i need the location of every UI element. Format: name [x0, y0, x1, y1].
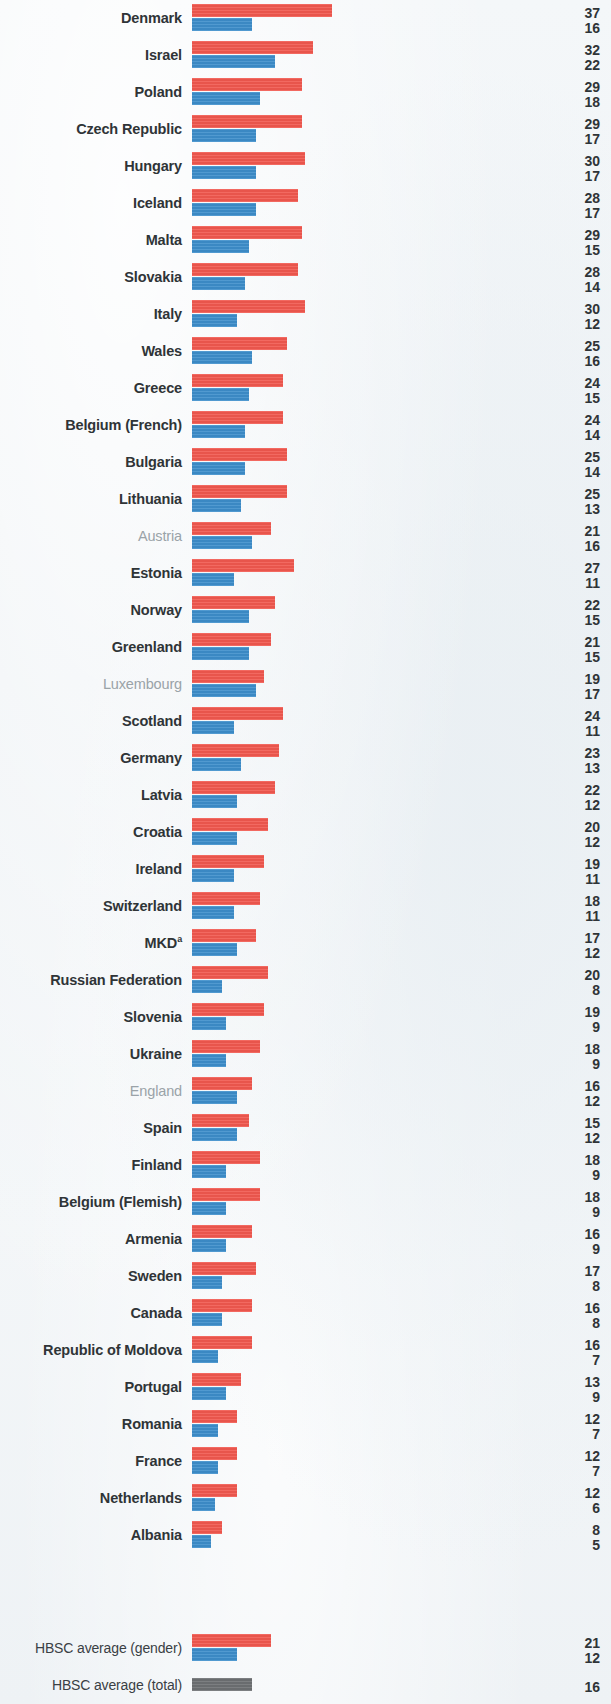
bar-girls [192, 758, 241, 771]
row-values: 2415 [554, 370, 600, 407]
row-values: 127 [554, 1406, 600, 1443]
row-values: 2918 [554, 74, 600, 111]
value-boys: 24 [584, 376, 600, 390]
row-label: Greece [0, 370, 182, 407]
value-girls: 16 [584, 21, 600, 35]
chart-row: Croatia2012 [0, 814, 611, 851]
value-girls: 11 [585, 724, 600, 738]
row-values: 189 [554, 1184, 600, 1221]
bar-boys [192, 1447, 237, 1460]
value-girls: 5 [592, 1538, 600, 1552]
bar-girls [192, 462, 245, 475]
value-boys: 22 [584, 783, 600, 797]
row-label: Hungary [0, 148, 182, 185]
bar-boys [192, 374, 283, 387]
bar-boys [192, 4, 332, 17]
row-label: England [0, 1073, 182, 1110]
value-boys: 20 [584, 820, 600, 834]
row-label: Canada [0, 1295, 182, 1332]
value-girls: 17 [584, 687, 600, 701]
chart-row: Ukraine189 [0, 1036, 611, 1073]
bar-girls [192, 55, 275, 68]
bar-boys [192, 226, 302, 239]
value-boys: 28 [584, 191, 600, 205]
value-girls: 16 [584, 539, 600, 553]
row-values: 2116 [554, 518, 600, 555]
value-boys: 13 [584, 1375, 600, 1389]
value-girls: 9 [592, 1205, 600, 1219]
bar-average-girls [192, 1648, 237, 1661]
chart-row: Scotland2411 [0, 703, 611, 740]
bar-girls [192, 129, 256, 142]
row-label: Albania [0, 1517, 182, 1554]
chart-row: Denmark3716 [0, 0, 611, 37]
row-values: 199 [554, 999, 600, 1036]
bar-girls [192, 980, 222, 993]
bar-girls [192, 351, 252, 364]
bar-average-total [192, 1678, 252, 1691]
row-label: HBSC average (total) [0, 1667, 182, 1704]
row-label: Malta [0, 222, 182, 259]
value-boys: 29 [584, 80, 600, 94]
value-girls: 11 [585, 576, 600, 590]
chart-row: Albania85 [0, 1517, 611, 1554]
row-values: 1612 [554, 1073, 600, 1110]
chart-row: England1612 [0, 1073, 611, 1110]
value-girls: 9 [592, 1020, 600, 1034]
row-values: 2513 [554, 481, 600, 518]
value-girls: 12 [584, 946, 600, 960]
value-girls: 14 [584, 465, 600, 479]
value-boys: 15 [584, 1116, 600, 1130]
row-values: 139 [554, 1369, 600, 1406]
row-label: Sweden [0, 1258, 182, 1295]
bar-girls [192, 906, 234, 919]
chart-row: Czech Republic2917 [0, 111, 611, 148]
row-values: 2411 [554, 703, 600, 740]
value-boys: 12 [584, 1486, 600, 1500]
chart-row: Belgium (French)2414 [0, 407, 611, 444]
value-average-girls: 12 [584, 1651, 600, 1665]
value-girls: 11 [585, 872, 600, 886]
chart-row: Armenia169 [0, 1221, 611, 1258]
value-girls: 14 [584, 428, 600, 442]
value-boys: 16 [584, 1227, 600, 1241]
chart-row: Ireland1911 [0, 851, 611, 888]
bar-boys [192, 1299, 252, 1312]
row-values: 16 [554, 1667, 600, 1704]
row-values: 2212 [554, 777, 600, 814]
average-row: HBSC average (total)16 [0, 1667, 611, 1704]
chart-row: Iceland2817 [0, 185, 611, 222]
value-boys: 18 [584, 1153, 600, 1167]
row-values: 2012 [554, 814, 600, 851]
value-boys: 25 [584, 487, 600, 501]
bar-boys [192, 300, 305, 313]
bar-boys [192, 707, 283, 720]
value-boys: 37 [584, 6, 600, 20]
bar-girls [192, 684, 256, 697]
row-values: 2917 [554, 111, 600, 148]
value-girls: 12 [584, 835, 600, 849]
value-girls: 11 [585, 909, 600, 923]
bar-girls [192, 1128, 237, 1141]
value-boys: 32 [584, 43, 600, 57]
row-values: 1917 [554, 666, 600, 703]
row-label: Finland [0, 1147, 182, 1184]
value-boys: 19 [584, 857, 600, 871]
bar-boys [192, 263, 298, 276]
chart-row: Estonia2711 [0, 555, 611, 592]
average-row: HBSC average (gender)2112 [0, 1630, 611, 1667]
row-values: 3012 [554, 296, 600, 333]
row-label: Spain [0, 1110, 182, 1147]
chart-row: Sweden178 [0, 1258, 611, 1295]
bar-boys [192, 596, 275, 609]
horizontal-bar-chart: Denmark3716Israel3222Poland2918Czech Rep… [0, 0, 611, 1704]
bar-girls [192, 536, 252, 549]
value-girls: 17 [584, 169, 600, 183]
value-girls: 9 [592, 1057, 600, 1071]
chart-row: Spain1512 [0, 1110, 611, 1147]
value-boys: 24 [584, 413, 600, 427]
value-boys: 29 [584, 117, 600, 131]
row-label: Czech Republic [0, 111, 182, 148]
bar-girls [192, 610, 249, 623]
value-boys: 8 [592, 1523, 600, 1537]
